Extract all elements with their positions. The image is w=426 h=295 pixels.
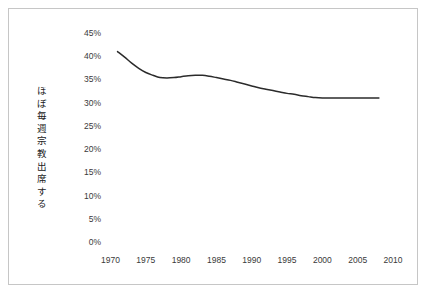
plot-area — [0, 0, 426, 295]
series-line-religious-attendance — [118, 52, 379, 98]
chart-figure: ほぼ毎週宗教出席する 0%5%10%15%20%25%30%35%40%45% … — [0, 0, 426, 295]
